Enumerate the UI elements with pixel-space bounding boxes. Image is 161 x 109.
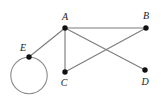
vertex-label-b: B — [143, 10, 149, 21]
vertex-label-e: E — [19, 42, 26, 53]
vertex-a — [62, 25, 67, 30]
loop-group — [11, 57, 47, 93]
vertex-label-c: C — [61, 77, 68, 88]
edge-group — [29, 28, 146, 72]
vertex-c — [62, 69, 67, 74]
edge-a-d — [65, 28, 145, 70]
vertex-d — [142, 67, 147, 72]
vertex-label-d: D — [140, 76, 149, 87]
edge-a-e — [29, 28, 65, 57]
graph-diagram: A B C D E — [0, 0, 161, 109]
graph-canvas: A B C D E — [0, 0, 161, 109]
vertex-e — [26, 54, 31, 59]
vertex-b — [143, 25, 148, 30]
vertex-label-a: A — [61, 11, 69, 22]
self-loop-e — [11, 57, 47, 93]
